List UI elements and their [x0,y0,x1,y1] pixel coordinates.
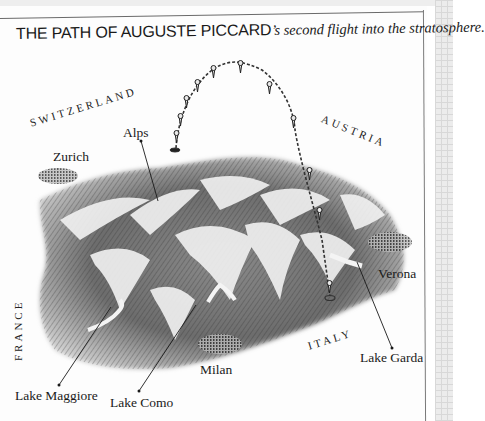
label-verona: Verona [378,266,416,282]
launch-marker [170,148,180,152]
label-lake-como: Lake Como [110,395,173,411]
label-zurich: Zurich [53,149,89,165]
zurich-city-marker [38,168,78,184]
label-lake-garda: Lake Garda [360,350,423,366]
label-lake-maggiore: Lake Maggiore [15,388,98,404]
milan-city-marker [198,334,242,354]
label-milan: Milan [200,362,232,378]
verona-city-marker [368,232,412,252]
mountain-terrain [38,157,412,369]
label-france: FRANCE [12,300,24,361]
label-alps: Alps [123,125,149,141]
